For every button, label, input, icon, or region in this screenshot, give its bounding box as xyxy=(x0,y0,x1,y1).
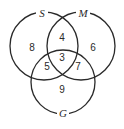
venn-diagram: S M G 8 6 4 3 5 7 9 xyxy=(0,0,124,129)
region-s-g: 5 xyxy=(44,61,50,72)
region-m-only: 6 xyxy=(90,42,96,53)
region-s-m-g: 3 xyxy=(59,52,65,63)
set-label-m: M xyxy=(77,7,88,19)
set-label-g: G xyxy=(59,107,67,119)
region-s-m: 4 xyxy=(59,32,65,43)
region-s-only: 8 xyxy=(29,42,35,53)
circle-m xyxy=(47,12,115,80)
set-label-s: S xyxy=(39,7,45,19)
region-m-g: 7 xyxy=(75,61,81,72)
region-g-only: 9 xyxy=(59,84,65,95)
